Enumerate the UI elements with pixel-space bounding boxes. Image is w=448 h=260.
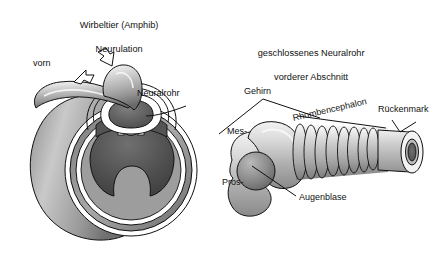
right-title-line1: geschlossenes Neuralrohr <box>258 48 365 58</box>
figure-canvas: Wirbeltier (Amphib) Neurulation vorn Neu… <box>0 0 448 260</box>
label-augenblase: Augenblase <box>299 192 347 203</box>
right-title-line2: vorderer Abschnitt <box>274 72 348 82</box>
label-mesencephalon: Mes- <box>227 126 247 137</box>
left-title-line1: Wirbeltier (Amphib) <box>80 20 159 30</box>
label-vorn: vorn <box>33 58 51 69</box>
label-neuralrohr: Neuralrohr <box>137 88 180 99</box>
label-prosencephalon: Pros- <box>222 177 244 188</box>
label-rueckenmark: Rückenmark <box>378 104 429 115</box>
label-gehirn: Gehirn <box>244 86 271 97</box>
neurula-embryo-group <box>30 48 197 240</box>
neural-canal-opening <box>408 143 416 161</box>
left-panel-title: Wirbeltier (Amphib) Neurulation <box>44 7 184 67</box>
spinal-cord-leader <box>392 120 416 132</box>
left-title-line2: Neurulation <box>96 44 143 54</box>
